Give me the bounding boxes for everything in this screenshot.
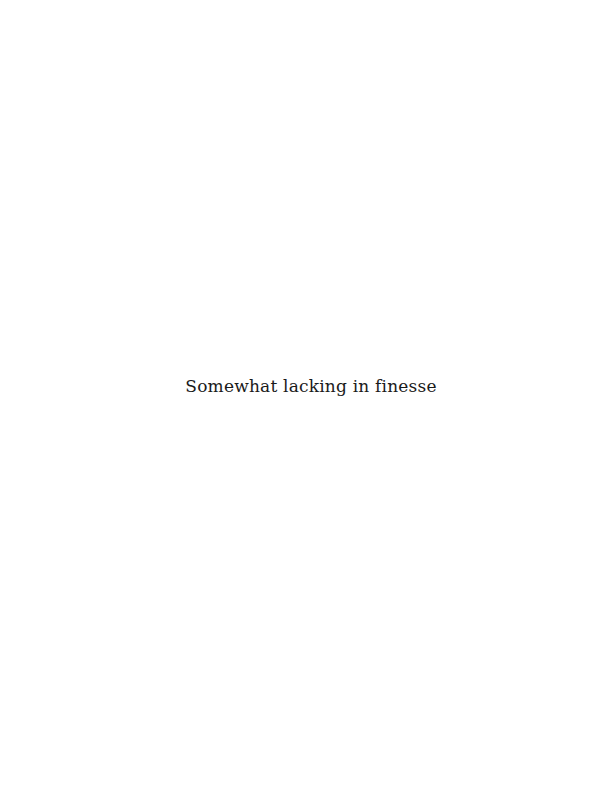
caption-line: Somewhat lacking in finesse — [0, 375, 602, 397]
caption-text: Somewhat lacking in finesse — [165, 375, 436, 397]
document-page: Somewhat lacking in finesse — [0, 0, 602, 812]
